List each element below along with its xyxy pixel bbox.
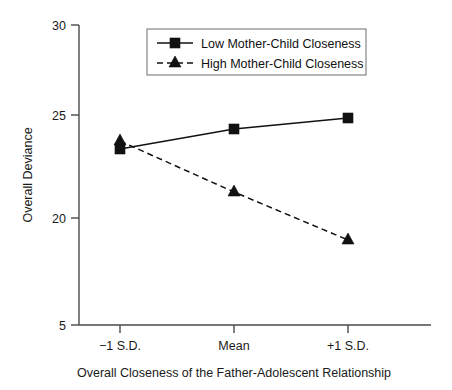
legend-label-high-mother-child-closeness: High Mother-Child Closeness: [201, 57, 364, 71]
y-axis-title: Overall Deviance: [21, 127, 35, 222]
x-tick-label-minus-1sd: −1 S.D.: [99, 339, 141, 353]
y-tick-label-20: 20: [52, 212, 66, 226]
legend-label-low-mother-child-closeness: Low Mother-Child Closeness: [201, 37, 361, 51]
chart-figure: 30 25 20 5 Overall Deviance −1 S.D. Mean…: [0, 0, 452, 390]
data-point-low-minus-1sd: [115, 144, 125, 154]
y-tick-label-30: 30: [52, 19, 66, 33]
legend-square-marker-icon: [170, 38, 180, 48]
y-tick-label-25: 25: [52, 109, 66, 123]
y-tick-label-5: 5: [59, 319, 66, 333]
x-tick-label-mean: Mean: [218, 339, 249, 353]
data-point-low-mean: [229, 124, 239, 134]
data-point-high-minus-1sd: [114, 134, 126, 145]
x-tick-label-plus-1sd: +1 S.D.: [327, 339, 369, 353]
x-axis-title: Overall Closeness of the Father-Adolesce…: [77, 366, 391, 380]
data-point-low-plus-1sd: [343, 113, 353, 123]
chart-legend: Low Mother-Child Closeness High Mother-C…: [147, 29, 366, 75]
line-chart: 30 25 20 5 Overall Deviance −1 S.D. Mean…: [0, 0, 452, 390]
